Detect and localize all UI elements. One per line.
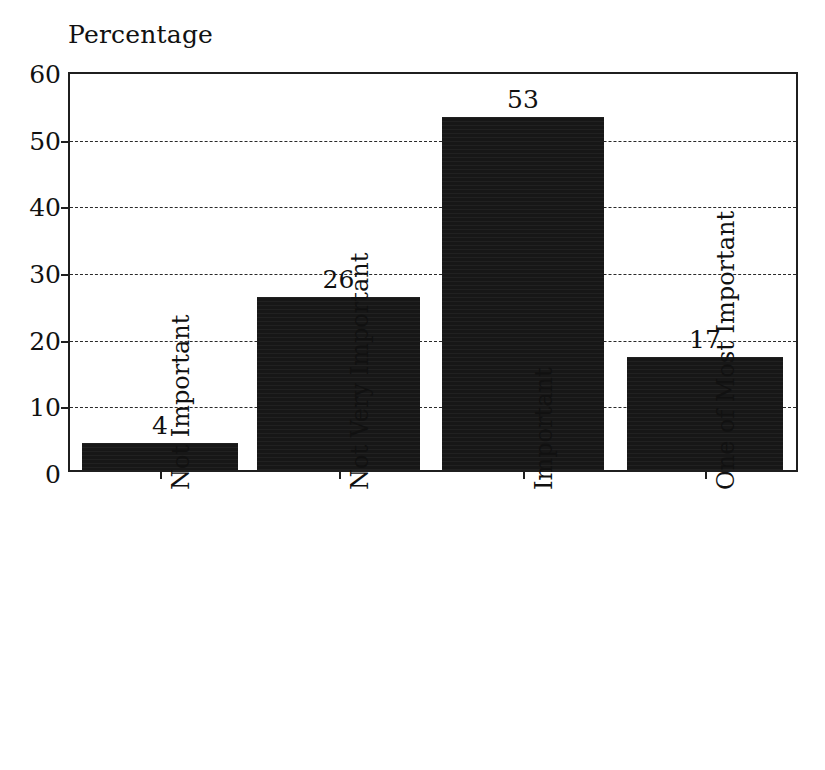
bar-value-label: 53 bbox=[507, 87, 539, 112]
y-axis-tick-label: 50 bbox=[29, 128, 61, 153]
bar[interactable] bbox=[82, 443, 238, 470]
bar-chart-figure: Percentage 0102030405060 4265317 Not Imp… bbox=[0, 0, 825, 770]
y-axis-tick-mark bbox=[61, 207, 70, 209]
x-axis-tick-mark bbox=[705, 470, 707, 479]
y-axis-tick-mark bbox=[61, 274, 70, 276]
bar[interactable] bbox=[442, 117, 604, 470]
y-axis-tick-label: 40 bbox=[29, 195, 61, 220]
gridline bbox=[70, 207, 796, 208]
y-axis-tick-mark bbox=[61, 407, 70, 409]
y-axis-tick-mark bbox=[61, 141, 70, 143]
x-axis-tick-mark bbox=[160, 470, 162, 479]
x-axis-category-label: Not Important bbox=[169, 315, 193, 490]
x-axis-category-label: Important bbox=[532, 367, 556, 490]
gridline bbox=[70, 141, 796, 142]
y-axis-tick-label: 60 bbox=[29, 62, 61, 87]
gridline bbox=[70, 274, 796, 275]
chart-title: Percentage bbox=[68, 22, 213, 47]
y-axis-tick-label: 20 bbox=[29, 328, 61, 353]
bar[interactable] bbox=[627, 357, 783, 470]
y-axis-tick-label: 30 bbox=[29, 262, 61, 287]
bar[interactable] bbox=[257, 297, 420, 470]
x-axis-category-label: One of Most Important bbox=[714, 211, 738, 490]
y-axis-tick-mark bbox=[61, 341, 70, 343]
bar-value-label: 4 bbox=[152, 413, 168, 438]
y-axis-tick-label: 0 bbox=[45, 462, 61, 487]
y-axis-tick-label: 10 bbox=[29, 395, 61, 420]
x-axis-tick-mark bbox=[339, 470, 341, 479]
x-axis-category-label: Not Very Important bbox=[348, 253, 372, 490]
x-axis-tick-mark bbox=[523, 470, 525, 479]
